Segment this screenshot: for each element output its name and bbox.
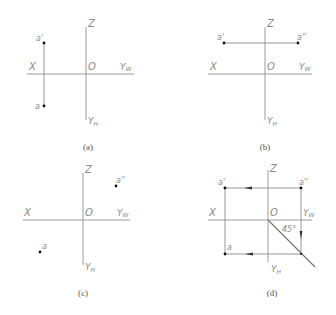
point-miter-intersection <box>300 253 302 255</box>
label-origin: O <box>267 61 275 72</box>
label-yw: YW <box>120 62 133 72</box>
label-a: a <box>35 102 40 111</box>
label-x: X <box>23 207 32 218</box>
label-a-prime: a' <box>218 178 225 187</box>
point-a-front <box>224 187 227 190</box>
projection-diagram: X O Z YW YH a' a (a) X O Z YW YH a' a'' … <box>0 0 336 315</box>
label-yw: YW <box>303 208 316 218</box>
label-z: Z <box>269 163 278 174</box>
label-yh: YH <box>267 116 278 127</box>
label-a: a <box>42 242 47 251</box>
panel-b: X O Z YW YH a' a'' (b) <box>208 18 312 152</box>
label-yw: YW <box>299 62 312 72</box>
caption-b: (b) <box>260 142 271 152</box>
caption-d: (d) <box>267 288 278 298</box>
label-yh: YH <box>85 262 96 273</box>
label-a-prime: a' <box>36 34 43 43</box>
label-yh: YH <box>271 264 282 275</box>
label-x: X <box>209 61 218 72</box>
label-a-double-prime: a'' <box>299 178 308 187</box>
label-a-prime: a' <box>217 33 224 42</box>
panel-a: X O Z YW YH a' a (a) <box>27 18 134 152</box>
point-a-top <box>224 253 227 256</box>
label-yw: YW <box>117 208 130 218</box>
point-a-top <box>39 251 42 254</box>
label-x: X <box>28 61 37 72</box>
point-a-side <box>300 187 303 190</box>
label-z: Z <box>84 164 93 175</box>
arrow-down-icon <box>300 231 303 239</box>
caption-c: (c) <box>78 288 88 298</box>
arrow-left-icon <box>244 187 252 190</box>
label-z: Z <box>266 18 275 29</box>
label-a-double-prime: a'' <box>116 176 125 185</box>
label-z: Z <box>87 18 96 29</box>
label-45-degree: 45° <box>282 225 296 234</box>
label-x: X <box>208 207 217 218</box>
label-origin: O <box>270 207 278 218</box>
point-a-front <box>223 42 226 45</box>
arrow-left-icon <box>245 253 253 256</box>
panel-d: X O Z YW YH a' a'' a 45° (d) <box>208 163 316 298</box>
panel-c: X O Z YW YH a'' a (c) <box>23 164 130 298</box>
point-a-side <box>115 185 118 188</box>
label-origin: O <box>88 61 96 72</box>
label-a-double-prime: a'' <box>297 33 306 42</box>
label-yh: YH <box>88 116 99 127</box>
point-a-top <box>43 105 46 108</box>
caption-a: (a) <box>83 142 93 152</box>
label-a: a <box>227 243 232 252</box>
label-origin: O <box>85 207 93 218</box>
point-a-side <box>297 42 300 45</box>
